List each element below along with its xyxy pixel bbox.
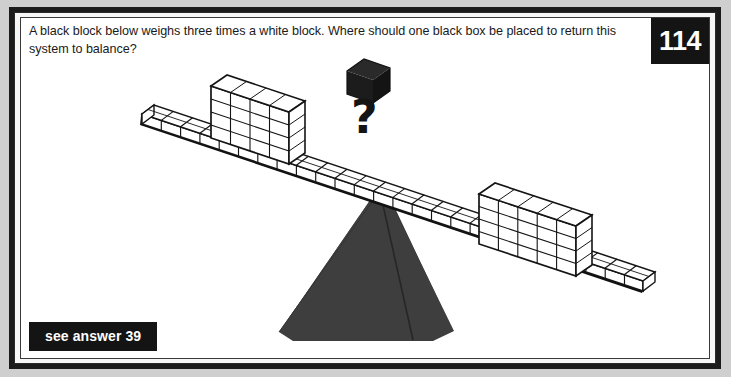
balance-illustration: [21, 18, 710, 359]
question-text: A black block below weighs three times a…: [29, 22, 644, 58]
white-block-stack-right: [479, 183, 592, 276]
puzzle-page: A black block below weighs three times a…: [0, 0, 731, 377]
triangular-fulcrum: [279, 195, 454, 341]
see-answer-link[interactable]: see answer 39: [29, 322, 157, 351]
content-area: A black block below weighs three times a…: [20, 17, 710, 359]
white-block-stack-left: [211, 75, 305, 164]
page-number-badge: 114: [651, 18, 709, 64]
question-mark: ?: [351, 94, 378, 140]
page-number: 114: [659, 28, 701, 55]
see-answer-label: see answer 39: [45, 328, 141, 344]
balance-beam: [140, 105, 655, 293]
